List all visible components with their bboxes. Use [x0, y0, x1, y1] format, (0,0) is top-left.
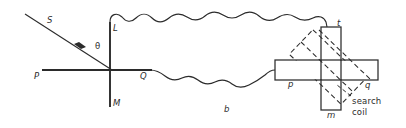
label-axis-top-l: L: [113, 23, 118, 33]
figure-caption: b: [224, 104, 230, 114]
label-axis-left-p: P: [34, 71, 39, 81]
label-axis-right-q: Q: [140, 71, 147, 81]
label-search-coil-line2: coil: [352, 107, 367, 117]
label-axis-bottom-m: M: [113, 98, 121, 108]
diagram-svg: [0, 0, 406, 128]
figure-canvas: S θ P Q L M t m p q search coil b: [0, 0, 406, 128]
cross-horizontal-bar-mask: [276, 61, 378, 80]
ray-arrowhead-icon: [74, 42, 86, 49]
label-cross-left-p: p: [288, 79, 294, 89]
label-cross-bottom-m: m: [327, 110, 335, 120]
label-ray-source: S: [47, 15, 53, 25]
label-search-coil-line1: search: [352, 96, 381, 106]
label-angle-theta: θ: [95, 41, 100, 51]
wave-top-conductor: [110, 12, 327, 27]
wave-bottom-conductor: [150, 70, 275, 87]
label-cross-top-t: t: [337, 18, 341, 28]
label-cross-right-q: q: [365, 80, 371, 90]
